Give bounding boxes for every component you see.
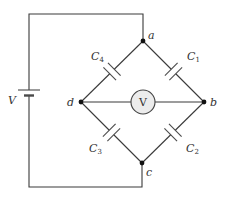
battery-icon [18,90,40,96]
battery-label: V [8,94,17,107]
circuit-diagram: V V a b c d C1 C2 C3 C4 [0,0,228,197]
capacitor-c2-label: C2 [186,142,199,156]
voltmeter-label: V [138,96,148,109]
wire-bottom [29,95,142,187]
capacitor-c1-label: C1 [187,50,200,64]
node-a [141,39,146,44]
capacitor-c3-label: C3 [89,142,102,156]
node-a-label: a [148,29,155,42]
wire-top [29,14,143,90]
node-b [202,100,207,105]
node-d [79,100,84,105]
capacitor-c4-label: C4 [91,50,104,64]
node-b-label: b [210,96,217,109]
node-d-label: d [67,96,74,109]
node-c [140,161,145,166]
node-c-label: c [146,166,152,179]
